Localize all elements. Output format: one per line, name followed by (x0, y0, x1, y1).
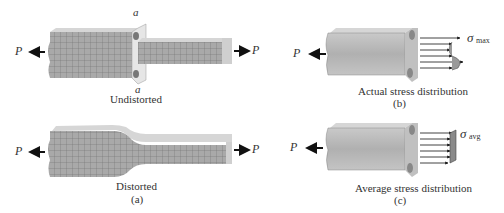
load-label: P (290, 140, 297, 155)
stress-symbol: σ (460, 126, 466, 142)
caption-average: Average stress distribution (355, 182, 472, 194)
actual-stress-arrows (420, 38, 463, 70)
load-label-right: P (252, 142, 259, 157)
average-stress-arrows (420, 130, 456, 163)
load-label-left: P (15, 144, 22, 159)
load-label-right: P (252, 43, 259, 58)
section-label-top: a (133, 6, 139, 18)
stress-symbol: σ (467, 30, 473, 46)
panel-letter-a: (a) (131, 193, 143, 205)
stress-subscript: avg (469, 132, 481, 141)
load-label: P (293, 46, 300, 61)
distorted-bar (48, 125, 232, 177)
undistorted-bar (48, 24, 232, 84)
caption-distorted: Distorted (116, 180, 157, 192)
stress-subscript: max (476, 36, 490, 45)
caption-undistorted: Undistorted (110, 93, 162, 105)
panel-letter-b: (b) (393, 97, 406, 109)
caption-actual: Actual stress distribution (358, 85, 468, 97)
load-label-left: P (15, 44, 22, 59)
panel-letter-c: (c) (394, 194, 406, 206)
average-stress-bar (326, 123, 418, 177)
actual-stress-bar (326, 28, 418, 82)
